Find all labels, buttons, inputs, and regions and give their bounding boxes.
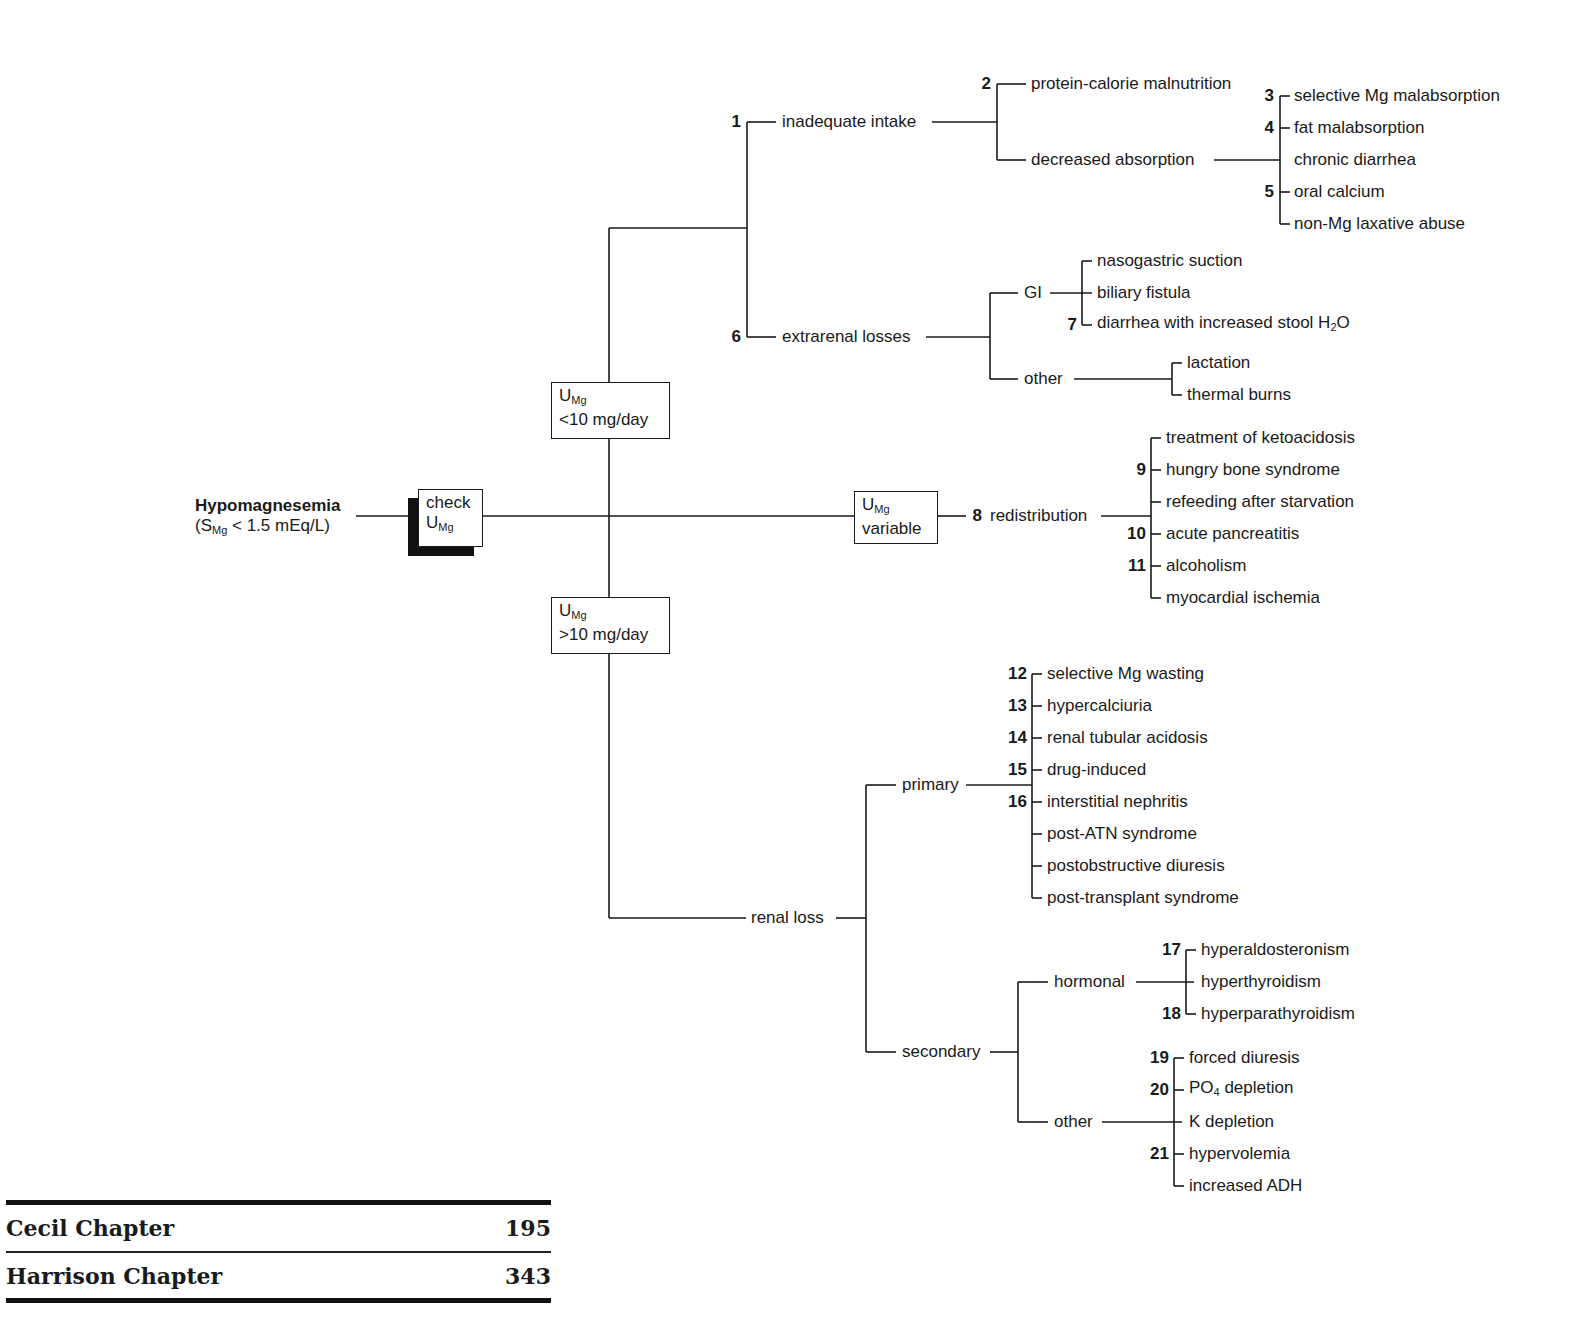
reference-table-2: Harrison Chapter 343	[6, 1253, 551, 1299]
node-number: 11	[1128, 556, 1146, 576]
check-box-line1: check	[426, 493, 475, 513]
umg-variable-value: variable	[862, 519, 930, 539]
node-number: 7	[1068, 315, 1077, 335]
node-primary: primary	[902, 775, 959, 795]
reference-row-cecil: Cecil Chapter 195	[6, 1205, 551, 1251]
node-number: 4	[1265, 118, 1274, 138]
leaf-item: nasogastric suction	[1097, 251, 1243, 271]
leaf-item: postobstructive diuresis	[1047, 856, 1225, 876]
node-renal-loss: renal loss	[751, 908, 824, 928]
subtitle-suffix: < 1.5 mEq/L)	[227, 516, 330, 535]
reference-bottom-rule	[6, 1298, 551, 1303]
node-number: 1	[732, 112, 741, 132]
node-number: 16	[1008, 792, 1027, 812]
umg-sub: Mg	[571, 394, 586, 406]
reference-value: 195	[505, 1215, 551, 1241]
leaf-item: hypercalciuria	[1047, 696, 1152, 716]
subtitle-sub: Mg	[212, 524, 227, 536]
leaf-item: biliary fistula	[1097, 283, 1191, 303]
leaf-item: increased ADH	[1189, 1176, 1302, 1196]
node-number: 19	[1150, 1048, 1169, 1068]
leaf-item: post-transplant syndrome	[1047, 888, 1239, 908]
leaf-item: chronic diarrhea	[1294, 150, 1416, 170]
node-number: 20	[1150, 1080, 1169, 1100]
umg-main: U	[862, 495, 874, 514]
leaf-item: non-Mg laxative abuse	[1294, 214, 1465, 234]
leaf-item: alcoholism	[1166, 556, 1246, 576]
node-other-extrarenal: other	[1024, 369, 1063, 389]
node-number: 9	[1137, 460, 1146, 480]
leaf-suffix: depletion	[1220, 1078, 1294, 1097]
node-gi: GI	[1024, 283, 1042, 303]
leaf-text: diarrhea with increased stool H	[1097, 313, 1330, 332]
umg-main: U	[426, 513, 438, 532]
leaf-item: drug-induced	[1047, 760, 1146, 780]
umg-high-box: UMg >10 mg/day	[551, 597, 670, 654]
diagram-title: Hypomagnesemia	[195, 496, 341, 516]
node-hormonal: hormonal	[1054, 972, 1125, 992]
leaf-text: PO	[1189, 1078, 1214, 1097]
umg-low-box: UMg <10 mg/day	[551, 382, 670, 439]
check-umg-box: check UMg	[418, 489, 483, 547]
reference-label: Harrison Chapter	[6, 1263, 222, 1289]
node-number: 14	[1008, 728, 1027, 748]
leaf-item: refeeding after starvation	[1166, 492, 1354, 512]
umg-low-value: <10 mg/day	[559, 410, 662, 430]
check-box-line2: UMg	[426, 513, 475, 537]
umg-low-label: UMg	[559, 386, 662, 410]
leaf-item: thermal burns	[1187, 385, 1291, 405]
leaf-item: interstitial nephritis	[1047, 792, 1188, 812]
node-number: 8	[973, 506, 982, 526]
leaf-item: myocardial ischemia	[1166, 588, 1320, 608]
node-number: 5	[1265, 182, 1274, 202]
node-number: 21	[1150, 1144, 1169, 1164]
umg-main: U	[559, 386, 571, 405]
leaf-item: forced diuresis	[1189, 1048, 1300, 1068]
node-secondary: secondary	[902, 1042, 980, 1062]
leaf-suffix: O	[1337, 313, 1350, 332]
leaf-item: acute pancreatitis	[1166, 524, 1299, 544]
umg-high-value: >10 mg/day	[559, 625, 662, 645]
node-number: 10	[1127, 524, 1146, 544]
leaf-item: treatment of ketoacidosis	[1166, 428, 1355, 448]
node-inadequate-intake: inadequate intake	[782, 112, 916, 132]
node-number: 2	[982, 74, 991, 94]
leaf-item: diarrhea with increased stool H2O	[1097, 313, 1350, 337]
node-redistribution: redistribution	[990, 506, 1087, 526]
node-number: 13	[1008, 696, 1027, 716]
umg-high-label: UMg	[559, 601, 662, 625]
umg-variable-box: UMg variable	[854, 491, 938, 544]
node-number: 18	[1162, 1004, 1181, 1024]
leaf-item: selective Mg wasting	[1047, 664, 1204, 684]
leaf-item: post-ATN syndrome	[1047, 824, 1197, 844]
node-number: 6	[732, 327, 741, 347]
leaf-item: hungry bone syndrome	[1166, 460, 1340, 480]
diagram-subtitle: (SMg < 1.5 mEq/L)	[195, 516, 330, 540]
leaf-item: hyperparathyroidism	[1201, 1004, 1355, 1024]
leaf-item: hyperthyroidism	[1201, 972, 1321, 992]
node-number: 3	[1265, 86, 1274, 106]
leaf-item: hypervolemia	[1189, 1144, 1290, 1164]
leaf-item: selective Mg malabsorption	[1294, 86, 1500, 106]
node-extrarenal-losses: extrarenal losses	[782, 327, 911, 347]
reference-table: Cecil Chapter 195	[6, 1205, 551, 1251]
leaf-item: hyperaldosteronism	[1201, 940, 1349, 960]
leaf-item: renal tubular acidosis	[1047, 728, 1208, 748]
leaf-item: K depletion	[1189, 1112, 1274, 1132]
leaf-item: PO4 depletion	[1189, 1078, 1293, 1102]
umg-sub: Mg	[571, 609, 586, 621]
subtitle-prefix: (S	[195, 516, 212, 535]
node-decreased-absorption: decreased absorption	[1031, 150, 1195, 170]
node-number: 15	[1008, 760, 1027, 780]
umg-variable-label: UMg	[862, 495, 930, 519]
reference-value: 343	[505, 1263, 551, 1289]
reference-label: Cecil Chapter	[6, 1215, 174, 1241]
leaf-item: fat malabsorption	[1294, 118, 1424, 138]
node-number: 12	[1008, 664, 1027, 684]
umg-sub: Mg	[874, 503, 889, 515]
umg-main: U	[559, 601, 571, 620]
umg-sub: Mg	[438, 521, 453, 533]
leaf-item: oral calcium	[1294, 182, 1385, 202]
node-protein-calorie: protein-calorie malnutrition	[1031, 74, 1231, 94]
reference-row-harrison: Harrison Chapter 343	[6, 1253, 551, 1299]
